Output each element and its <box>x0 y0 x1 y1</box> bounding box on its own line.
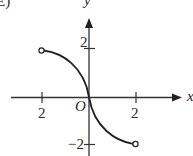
graph-svg <box>0 0 193 156</box>
x-tick-label-left: 2 <box>38 106 46 121</box>
y-tick-label-top: 2 <box>80 35 88 50</box>
open-endpoint-left <box>39 48 44 53</box>
origin-label: O <box>75 99 86 114</box>
y-axis-label: y <box>84 0 91 8</box>
x-axis-label: x <box>187 89 193 104</box>
x-axis-arrow-icon <box>172 94 182 102</box>
x-tick-label-right: 2 <box>131 106 139 121</box>
y-tick-label-bottom: −2 <box>68 137 84 152</box>
open-endpoint-right <box>133 141 138 146</box>
option-label: E) <box>0 0 10 9</box>
y-axis-arrow-icon <box>85 18 93 28</box>
